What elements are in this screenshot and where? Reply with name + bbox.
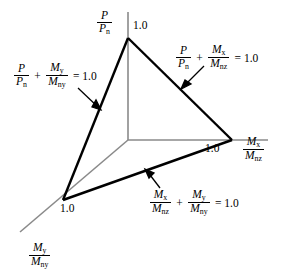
equation-right-equals: = 1.0 xyxy=(232,53,258,65)
equation-bottom-term-2: My Mny xyxy=(188,189,209,216)
equation-bottom-term-1: Mx Mnz xyxy=(150,189,171,216)
interaction-surface-figure: P Pn 1.0 1.0 Mx Mnz 1.0 My Mny P Pn + My… xyxy=(0,0,287,280)
tick-label-moment-z: 1.0 xyxy=(205,143,219,155)
equation-left-face: P Pn + My Mny = 1.0 xyxy=(14,63,97,90)
equation-left-term-1: P Pn xyxy=(14,63,29,89)
tick-label-moment-y: 1.0 xyxy=(60,203,74,215)
axis-mz-denominator: Mnz xyxy=(243,150,264,163)
fraction-axial: P Pn xyxy=(97,10,112,36)
axis-label-axial: P Pn xyxy=(97,11,112,37)
tick-label-axial-top: 1.0 xyxy=(133,20,147,32)
arrowhead-bottom xyxy=(145,169,154,178)
axis-mz-numerator: Mx xyxy=(243,136,264,150)
fraction-moment-y: My Mny xyxy=(29,242,50,269)
equation-left-operator: + xyxy=(32,71,44,83)
equation-right-term-1: P Pn xyxy=(176,45,191,71)
equation-right-term-2: Mx Mnz xyxy=(208,44,229,71)
equation-left-term-2: My Mny xyxy=(46,62,67,89)
equation-left-equals: = 1.0 xyxy=(70,71,96,83)
leader-arrows xyxy=(78,66,204,188)
equation-bottom-face: Mx Mnz + My Mny = 1.0 xyxy=(150,190,239,217)
equation-bottom-equals: = 1.0 xyxy=(213,198,239,210)
diagonal-axis-line xyxy=(20,140,128,232)
equation-right-face: P Pn + Mx Mnz = 1.0 xyxy=(176,45,258,72)
axis-my-numerator: My xyxy=(29,242,50,256)
axis-axial-denominator: Pn xyxy=(97,23,112,36)
axis-my-denominator: Mny xyxy=(29,256,50,269)
equation-bottom-operator: + xyxy=(174,198,186,210)
axis-label-moment-z: Mx Mnz xyxy=(243,137,264,164)
axis-label-moment-y: My Mny xyxy=(29,243,50,270)
arrowhead-left xyxy=(92,100,101,110)
equation-right-operator: + xyxy=(194,53,206,65)
fraction-moment-z: Mx Mnz xyxy=(243,136,264,163)
